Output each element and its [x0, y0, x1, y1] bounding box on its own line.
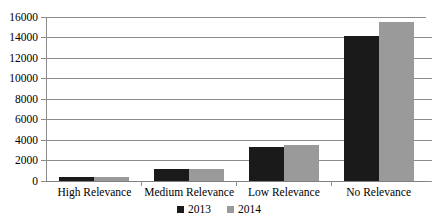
bar-chart: 16000 14000 12000 10000 8000 6000 4000 2…: [0, 0, 438, 224]
y-axis-tick-label: 10000: [0, 73, 38, 85]
x-axis-label-high-relevance: High Relevance: [47, 186, 142, 200]
legend-item-2014: 2014: [227, 204, 261, 216]
y-axis-tick-right: [426, 160, 432, 161]
y-axis-tick-label: 2000: [0, 155, 38, 167]
y-axis-tick-right: [426, 78, 432, 79]
y-axis-tick-right: [426, 99, 432, 100]
bar-2014-high-relevance: [94, 177, 129, 181]
bar-2014-medium-relevance: [189, 169, 224, 181]
y-axis-tick-label: 14000: [0, 32, 38, 44]
bar-groups: [47, 17, 426, 181]
legend-item-2013: 2013: [177, 204, 211, 216]
bar-group-high-relevance: [47, 17, 142, 181]
y-axis-tick-label: 4000: [0, 135, 38, 147]
legend-label-2014: 2014: [238, 204, 261, 216]
y-axis-tick-right: [426, 58, 432, 59]
x-axis-label-no-relevance: No Relevance: [331, 186, 426, 200]
legend-label-2013: 2013: [188, 204, 211, 216]
y-axis-tick-right: [426, 181, 432, 182]
bar-2013-medium-relevance: [154, 169, 189, 181]
legend-swatch-icon: [177, 206, 184, 213]
bar-group-low-relevance: [237, 17, 332, 181]
y-axis-tick-right: [426, 37, 432, 38]
y-axis-tick-label: 8000: [0, 94, 38, 106]
y-axis-tick-label: 16000: [0, 12, 38, 24]
bar-2013-no-relevance: [344, 36, 379, 181]
x-axis-labels: High Relevance Medium Relevance Low Rele…: [47, 186, 426, 200]
bar-group-medium-relevance: [142, 17, 237, 181]
bar-2013-high-relevance: [59, 177, 94, 181]
bar-2014-no-relevance: [379, 22, 414, 181]
y-axis-tick-label: 6000: [0, 114, 38, 126]
bar-2013-low-relevance: [249, 147, 284, 181]
y-axis-tick-label: 0: [0, 176, 38, 188]
y-axis-tick-label: 12000: [0, 53, 38, 65]
y-axis-tick-right: [426, 119, 432, 120]
x-axis-label-medium-relevance: Medium Relevance: [142, 186, 237, 200]
x-axis-label-low-relevance: Low Relevance: [237, 186, 332, 200]
legend-swatch-icon: [227, 206, 234, 213]
chart-legend: 2013 2014: [0, 204, 438, 216]
y-axis-tick-right: [426, 140, 432, 141]
bar-2014-low-relevance: [284, 145, 319, 181]
bar-group-no-relevance: [331, 17, 426, 181]
